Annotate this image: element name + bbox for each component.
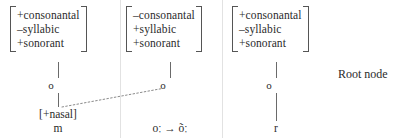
feature-row: –consonantal	[133, 8, 195, 22]
association-line-matrix-to-root	[276, 62, 277, 78]
feature-row: –syllabic	[17, 22, 80, 36]
feature-row: –syllabic	[239, 22, 302, 36]
column-divider-1	[120, 0, 121, 138]
root-node-glyph: o	[44, 80, 58, 91]
root-node-annotation: Root node	[338, 67, 388, 81]
tree-column-vowel: –consonantal +syllabic +sonorant o oː → …	[124, 0, 222, 138]
feature-node-nasal: [+nasal]	[39, 108, 77, 121]
feature-matrix-nasal-consonant: +consonantal –syllabic +sonorant	[10, 6, 87, 52]
segment-label: r	[274, 122, 278, 135]
association-line-matrix-to-root	[170, 62, 171, 78]
feature-row: +sonorant	[133, 36, 195, 50]
feature-matrix-vowel: –consonantal +syllabic +sonorant	[126, 6, 202, 52]
root-node-glyph: o	[262, 80, 276, 91]
association-line-root-to-feature	[58, 93, 59, 107]
feature-row: +sonorant	[17, 36, 80, 50]
feature-row: +syllabic	[133, 22, 195, 36]
tree-column-rhotic: +consonantal –syllabic +sonorant o r	[228, 0, 328, 138]
feature-row: +consonantal	[17, 8, 80, 22]
segment-label: oː → õː	[152, 122, 187, 135]
column-divider-2	[222, 0, 223, 138]
phonology-feature-geometry-diagram: +consonantal –syllabic +sonorant o [+nas…	[0, 0, 410, 138]
segment-label: m	[54, 122, 63, 135]
feature-row: +consonantal	[239, 8, 302, 22]
root-node-glyph: o	[156, 80, 170, 91]
association-line-matrix-to-root	[58, 62, 59, 78]
feature-row: +sonorant	[239, 36, 302, 50]
association-line-root-to-segment	[276, 93, 277, 121]
feature-matrix-rhotic: +consonantal –syllabic +sonorant	[232, 6, 309, 52]
tree-column-nasal-consonant: +consonantal –syllabic +sonorant o [+nas…	[4, 0, 120, 138]
